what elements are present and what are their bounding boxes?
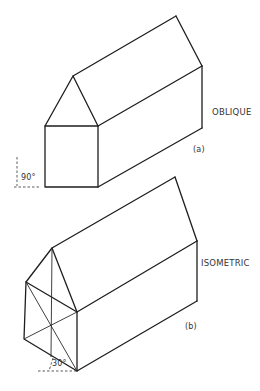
front-gable bbox=[45, 76, 98, 126]
oblique-house bbox=[14, 16, 202, 187]
eave-line bbox=[98, 66, 202, 126]
isometric-house bbox=[24, 177, 197, 371]
isometric-label: ISOMETRIC bbox=[201, 258, 250, 268]
angle-label-90: 90° bbox=[21, 173, 36, 182]
oblique-label: OBLIQUE bbox=[212, 107, 251, 117]
base-line bbox=[77, 301, 197, 371]
base-line bbox=[98, 128, 202, 187]
caption-b: (b) bbox=[185, 322, 197, 331]
back-gable-edge bbox=[175, 177, 197, 241]
angle-label-30: 30° bbox=[52, 359, 67, 368]
back-gable-edge bbox=[176, 16, 202, 66]
center-construction-line bbox=[51, 248, 52, 357]
eave-line bbox=[77, 241, 197, 312]
front-face bbox=[45, 126, 98, 187]
diagram-canvas bbox=[0, 0, 260, 391]
ridge-line bbox=[73, 16, 176, 76]
diagonal-construction-2 bbox=[24, 312, 77, 339]
caption-a: (a) bbox=[193, 145, 205, 154]
